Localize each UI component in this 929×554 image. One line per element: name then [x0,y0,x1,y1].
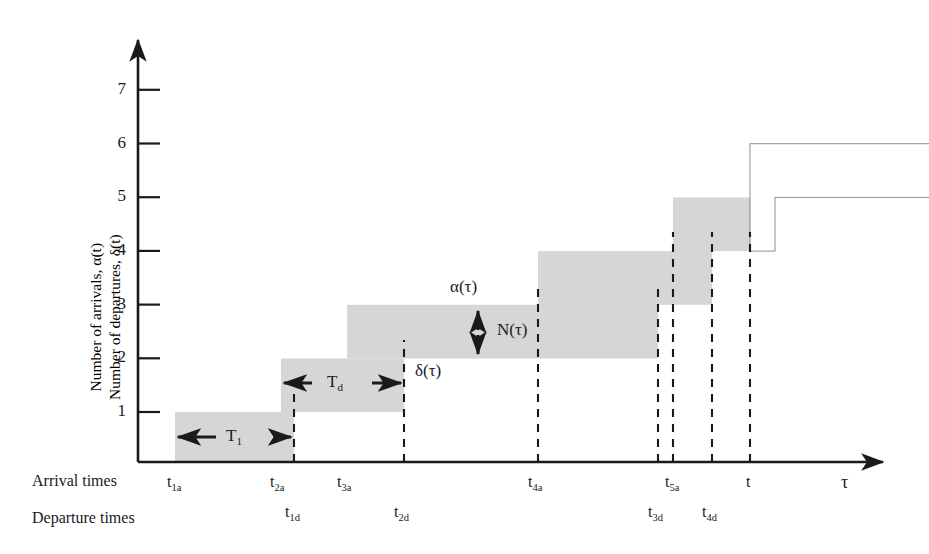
delta-tau-label: δ(τ) [415,361,441,381]
queue-shaded-region [175,197,750,462]
x-label-t1a: t1a [167,473,181,493]
x-label-t4d-subscript: 4d [706,512,717,523]
x-label-t-symbol: t [746,473,750,490]
x-label-t4a-subscript: 4a [532,482,542,493]
x-label-t4a: t4a [528,473,542,493]
x-label-t2d: t2d [394,503,409,523]
y-axis-caption-line1: Number of arrivals, α(t) [86,234,105,400]
alpha-tau-label: α(τ) [450,277,477,297]
y-tick-label-5: 5 [104,186,126,206]
x-label-t3a: t3a [337,473,351,493]
x-label-t2a: t2a [270,473,284,493]
x-label-t5a: t5a [665,473,679,493]
y-tick-label-6: 6 [104,133,126,153]
y-tick-label-4: 4 [104,240,126,260]
x-label-t3d: t3d [648,503,663,523]
x-label-t1a-subscript: 1a [171,482,181,493]
x-label-t1d: t1d [285,503,300,523]
x-label-t3d-subscript: 3d [652,512,663,523]
x-label-t: t [746,473,750,493]
x-label-t3a-subscript: 3a [341,482,351,493]
x-axis-symbol-tau: τ [841,472,848,493]
interval-Td-label: Td [327,372,343,393]
x-label-t2d-subscript: 2d [398,512,409,523]
y-tick-label-2: 2 [104,347,126,367]
x-label-t4d: t4d [702,503,717,523]
x-label-t2a-subscript: 2a [274,482,284,493]
interval-T1-symbol: T [226,426,236,445]
y-tick-label-1: 1 [104,401,126,421]
x-label-t5a-subscript: 5a [669,482,679,493]
y-tick-label-7: 7 [104,79,126,99]
y-axis-ticks [138,90,160,412]
interval-Td-subscript: d [337,381,343,393]
N-tau-label: N(τ) [497,320,527,340]
figure-canvas: Number of arrivals, α(t) Number of depar… [0,0,929,554]
interval-T1-label: T1 [226,426,242,447]
x-label-t1d-subscript: 1d [289,512,300,523]
interval-T1-subscript: 1 [236,435,242,447]
interval-Td-symbol: T [327,372,337,391]
row-label-arrival-times: Arrival times [32,472,117,490]
row-label-departure-times: Departure times [32,509,135,527]
y-tick-label-3: 3 [104,294,126,314]
departure-curve-delta [750,197,929,251]
